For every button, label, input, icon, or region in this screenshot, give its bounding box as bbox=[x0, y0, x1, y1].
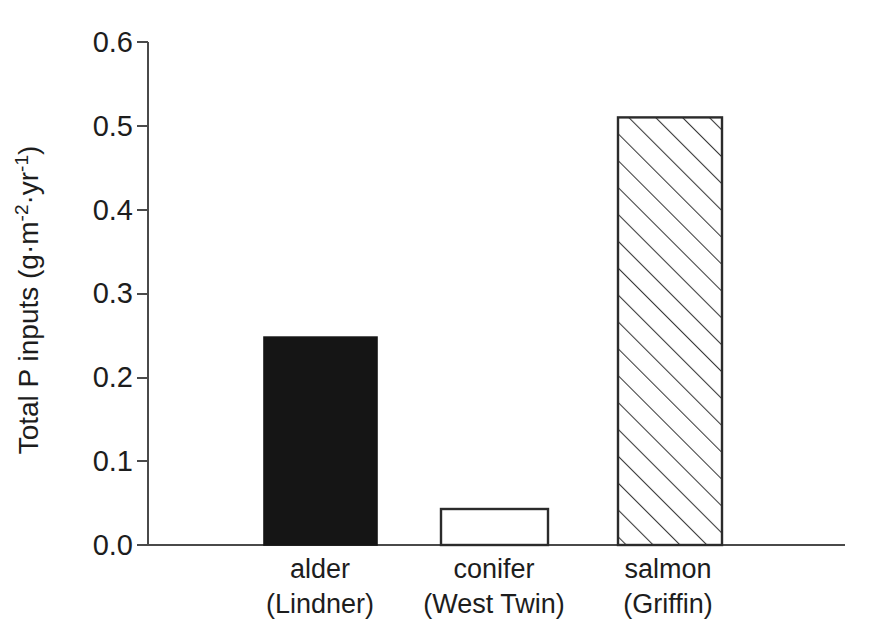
y-tick-label-0.1: 0.1 bbox=[93, 445, 133, 477]
y-tick-label-0.3: 0.3 bbox=[93, 277, 133, 309]
x-label-conifer-line2: (West Twin) bbox=[423, 589, 565, 619]
axis-spines bbox=[148, 42, 845, 545]
y-axis-title-sup2: -1 bbox=[11, 155, 32, 172]
x-axis-category-labels: alder (Lindner) conifer (West Twin) salm… bbox=[266, 554, 713, 619]
y-tick-label-0.6: 0.6 bbox=[93, 26, 133, 58]
y-axis-title: Total P inputs (g·m-2·yr-1) bbox=[11, 146, 44, 455]
x-label-alder-line1: alder bbox=[290, 554, 350, 584]
y-axis-tickmarks bbox=[137, 42, 148, 545]
svg-text:Total P inputs (g·m-2·yr-1): Total P inputs (g·m-2·yr-1) bbox=[11, 146, 44, 455]
y-axis-title-lead: Total P inputs (g·m bbox=[13, 221, 44, 454]
x-label-salmon-line1: salmon bbox=[624, 554, 711, 584]
y-tick-label-0.4: 0.4 bbox=[93, 194, 133, 226]
conifer-bar[interactable] bbox=[441, 509, 548, 545]
x-label-conifer: conifer (West Twin) bbox=[423, 554, 565, 619]
bars-group bbox=[264, 117, 722, 545]
x-label-alder-line2: (Lindner) bbox=[266, 589, 374, 619]
x-label-salmon: salmon (Griffin) bbox=[623, 554, 713, 619]
y-axis-title-tail: ) bbox=[13, 146, 44, 155]
bar-chart-canvas: Total P inputs (g·m-2·yr-1) 0.6 0.5 0.4 … bbox=[0, 0, 883, 640]
y-axis-title-mid: ·yr bbox=[13, 172, 44, 205]
alder-bar[interactable] bbox=[264, 337, 377, 545]
y-tick-label-0.2: 0.2 bbox=[93, 361, 133, 393]
salmon-bar[interactable] bbox=[618, 117, 722, 545]
y-axis-title-sup1: -2 bbox=[11, 205, 32, 222]
chart-figure: Total P inputs (g·m-2·yr-1) 0.6 0.5 0.4 … bbox=[0, 0, 883, 640]
x-label-alder: alder (Lindner) bbox=[266, 554, 374, 619]
x-label-conifer-line1: conifer bbox=[453, 554, 534, 584]
x-label-salmon-line2: (Griffin) bbox=[623, 589, 713, 619]
y-tick-label-0.5: 0.5 bbox=[93, 110, 133, 142]
y-tick-label-0.0: 0.0 bbox=[93, 529, 133, 561]
y-axis-tick-labels: 0.6 0.5 0.4 0.3 0.2 0.1 0.0 bbox=[93, 26, 133, 561]
